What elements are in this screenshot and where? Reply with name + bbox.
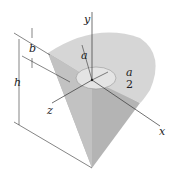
label-a-num: a <box>126 67 133 78</box>
label-z: z <box>47 105 53 116</box>
label-a: a <box>81 50 88 61</box>
diagram: y x z a a 2 b h <box>0 0 175 178</box>
label-y: y <box>84 14 90 25</box>
label-a-den: 2 <box>126 79 133 90</box>
cone-figure <box>0 0 175 178</box>
label-h: h <box>14 77 21 88</box>
label-b: b <box>29 43 36 54</box>
label-x: x <box>159 126 165 137</box>
